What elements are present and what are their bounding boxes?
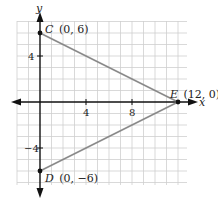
point-c: [38, 31, 43, 36]
tick-x-4: 4: [83, 107, 89, 118]
label-point-c: C (0, 6): [45, 23, 89, 36]
grid: [17, 21, 187, 185]
label-point-d: D (0, −6): [44, 172, 98, 185]
tick-y-4: 4: [28, 51, 34, 62]
arrow-left-icon: [11, 99, 21, 106]
point-d: [38, 169, 43, 174]
tick-y-neg4: −4: [24, 143, 39, 154]
tick-x-8: 8: [129, 107, 135, 118]
arrow-down-icon: [37, 188, 44, 198]
coordinate-plane: y x 4 8 4 −4 C (0, 6) E (12, 0) D (0, −6…: [0, 0, 218, 200]
label-point-e: E (12, 0): [169, 88, 218, 101]
y-axis-label: y: [35, 2, 43, 15]
